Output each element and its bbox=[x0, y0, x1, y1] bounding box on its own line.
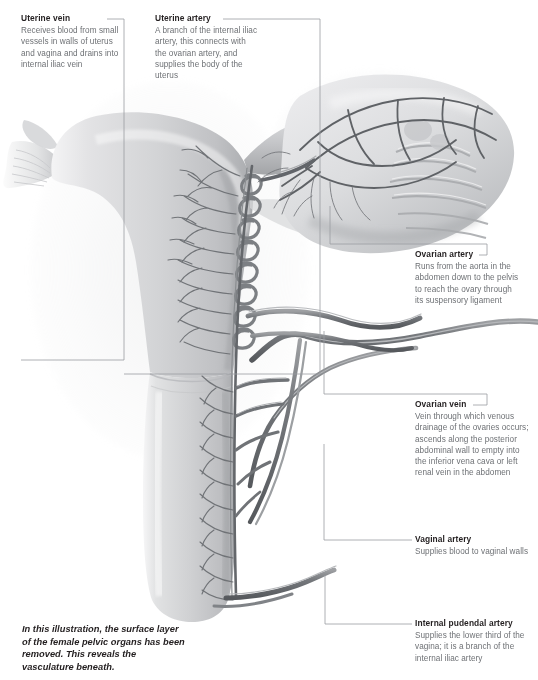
label-uterine-artery-title: Uterine artery bbox=[155, 13, 259, 24]
label-uterine-vein-body: Receives blood from small vessels in wal… bbox=[21, 25, 125, 70]
label-internal-pudendal-artery: Internal pudendal artery Supplies the lo… bbox=[415, 618, 533, 664]
label-ovarian-artery-title: Ovarian artery bbox=[415, 249, 519, 260]
label-internal-pudendal-artery-body: Supplies the lower third of the vagina; … bbox=[415, 630, 533, 664]
label-ovarian-vein-body: Vein through which venous drainage of th… bbox=[415, 411, 533, 479]
vagina bbox=[143, 372, 235, 622]
anatomical-illustration bbox=[0, 0, 538, 680]
ovary bbox=[279, 74, 514, 253]
label-uterine-artery-body: A branch of the internal iliac artery, t… bbox=[155, 25, 259, 81]
label-vaginal-artery-title: Vaginal artery bbox=[415, 534, 533, 545]
label-uterine-vein: Uterine vein Receives blood from small v… bbox=[21, 13, 125, 70]
figure-caption: In this illustration, the surface layer … bbox=[22, 623, 187, 673]
label-vaginal-artery: Vaginal artery Supplies blood to vaginal… bbox=[415, 534, 533, 557]
label-internal-pudendal-artery-title: Internal pudendal artery bbox=[415, 618, 533, 629]
label-uterine-vein-title: Uterine vein bbox=[21, 13, 125, 24]
label-vaginal-artery-body: Supplies blood to vaginal walls bbox=[415, 546, 533, 557]
label-ovarian-artery: Ovarian artery Runs from the aorta in th… bbox=[415, 249, 519, 306]
label-ovarian-artery-body: Runs from the aorta in the abdomen down … bbox=[415, 261, 519, 306]
illustration-page: Uterine vein Receives blood from small v… bbox=[0, 0, 538, 680]
label-ovarian-vein: Ovarian vein Vein through which venous d… bbox=[415, 399, 533, 479]
label-uterine-artery: Uterine artery A branch of the internal … bbox=[155, 13, 259, 81]
label-ovarian-vein-title: Ovarian vein bbox=[415, 399, 533, 410]
